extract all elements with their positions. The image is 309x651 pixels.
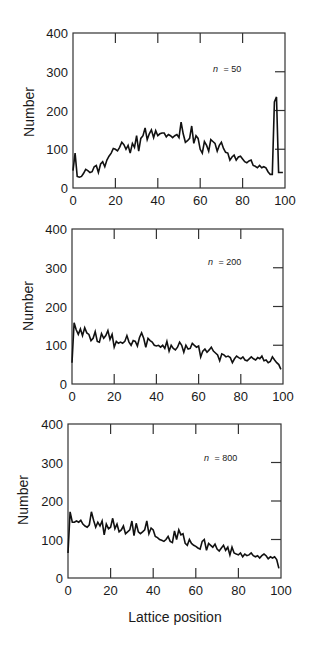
y-tick-label: 100 [45,338,67,353]
y-tick-label: 0 [60,377,67,392]
y-tick-label: 400 [46,26,68,41]
data-line [73,97,283,177]
annotation-n200: n = 200 [208,257,241,267]
y-tick-label: 200 [46,104,68,119]
y-tick-labels: 0100200300400 [41,417,63,586]
x-tick-label: 0 [68,389,75,404]
y-tick-label: 300 [41,456,63,471]
x-tick-label: 40 [151,193,165,208]
chart-panel-n200: 0100200300400 020406080100 Number n = 20… [20,222,294,404]
x-tick-label: 20 [107,389,121,404]
y-axis-label: Number [21,87,37,137]
chart-panel-n50: 0100200300400 020406080100 Number n = 50 [21,26,296,208]
y-tick-label: 400 [41,417,63,432]
data-line [68,512,279,569]
x-axis-label: Lattice position [128,609,221,625]
y-tick-label: 400 [45,222,67,237]
axis-ticks [114,229,283,384]
y-tick-label: 0 [61,181,68,196]
y-tick-labels: 0100200300400 [46,26,68,196]
plot-frame [72,229,283,384]
x-tick-label: 20 [103,583,117,598]
y-tick-label: 100 [46,142,68,157]
x-tick-label: 60 [189,583,203,598]
y-tick-labels: 0100200300400 [45,222,67,392]
x-tick-label: 100 [272,389,294,404]
y-tick-label: 0 [56,571,63,586]
x-tick-label: 40 [149,389,163,404]
y-axis-label: Number [20,281,36,331]
x-tick-label: 80 [235,193,249,208]
x-tick-label: 80 [231,583,245,598]
y-tick-label: 200 [41,494,63,509]
x-tick-label: 100 [270,583,292,598]
figure: 0100200300400 020406080100 Number n = 50… [0,0,309,651]
x-tick-labels: 020406080100 [64,583,291,598]
y-tick-label: 300 [45,261,67,276]
axis-ticks [111,424,281,578]
x-tick-labels: 020406080100 [68,389,293,404]
x-tick-label: 0 [64,583,71,598]
annotation-n50: n = 50 [213,64,241,74]
data-line [72,323,281,370]
annotation-n800: n = 800 [204,453,237,463]
x-tick-label: 0 [69,193,76,208]
x-tick-label: 100 [274,193,296,208]
x-tick-label: 40 [146,583,160,598]
x-tick-label: 20 [108,193,122,208]
chart-panel-n800: 0100200300400 020406080100 Number n = 80… [15,417,292,625]
x-tick-label: 80 [234,389,248,404]
y-axis-label: Number [15,475,31,525]
x-tick-label: 60 [193,193,207,208]
x-tick-label: 60 [191,389,205,404]
x-tick-labels: 020406080100 [69,193,295,208]
y-tick-label: 200 [45,300,67,315]
y-tick-label: 300 [46,65,68,80]
y-tick-label: 100 [41,533,63,548]
